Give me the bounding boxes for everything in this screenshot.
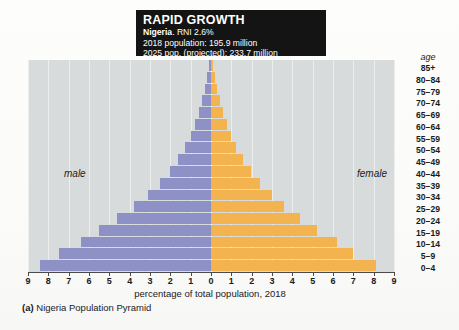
age-group-label: 25–29: [400, 204, 456, 216]
bar-male: [191, 131, 211, 142]
title-pop-2025: 2025 pop. (projected): 233.7 million: [143, 48, 319, 59]
age-group-label: 70–74: [400, 98, 456, 110]
x-tick-label: 4: [290, 276, 295, 286]
x-tick-label: 3: [269, 276, 274, 286]
bar-female: [211, 119, 227, 130]
age-group-label: 45–49: [400, 157, 456, 169]
age-group-label: 5–9: [400, 251, 456, 263]
female-series-label: female: [357, 168, 387, 179]
x-tick-label: 4: [127, 276, 132, 286]
bar-male: [134, 201, 211, 212]
age-group-label: 60–64: [400, 122, 456, 134]
bar-male: [59, 248, 212, 259]
bar-female: [211, 201, 284, 212]
x-tick-label: 5: [310, 276, 315, 286]
age-group-label: 10–14: [400, 239, 456, 251]
pyramid-row: [28, 107, 394, 119]
age-group-label: 85+: [400, 63, 456, 75]
bar-female: [211, 72, 215, 83]
bar-male: [178, 154, 211, 165]
bar-female: [211, 260, 376, 271]
age-group-label: 15–19: [400, 228, 456, 240]
age-group-label: 65–69: [400, 110, 456, 122]
x-tick-label: 6: [330, 276, 335, 286]
bar-female: [211, 84, 217, 95]
pyramid-row: [28, 119, 394, 131]
pyramid-row: [28, 142, 394, 154]
pyramid-row: [28, 190, 394, 202]
x-tick-label: 6: [86, 276, 91, 286]
bar-male: [170, 166, 211, 177]
pyramid-row: [28, 260, 394, 272]
age-group-label: 75–79: [400, 87, 456, 99]
x-tick-label: 0: [208, 276, 213, 286]
age-group-label: 30–34: [400, 192, 456, 204]
bar-female: [211, 237, 337, 248]
bar-female: [211, 142, 236, 153]
pyramid-row: [28, 84, 394, 96]
pyramid-row: [28, 213, 394, 225]
bar-male: [195, 119, 211, 130]
bar-female: [211, 225, 317, 236]
age-group-label: 50–54: [400, 145, 456, 157]
title-pop-2018: 2018 population: 195.9 million: [143, 38, 319, 49]
pyramid-plot-area: male: [28, 60, 394, 272]
bar-female: [211, 107, 223, 118]
age-group-label: 0–4: [400, 263, 456, 275]
x-tick-label: 9: [391, 276, 396, 286]
gridline: [394, 60, 395, 272]
bar-female: [211, 190, 272, 201]
title-heading: RAPID GROWTH: [143, 13, 319, 27]
x-tick-label: 7: [66, 276, 71, 286]
pyramid-row: [28, 225, 394, 237]
bar-female: [211, 60, 213, 71]
x-tick-label: 3: [147, 276, 152, 286]
age-group-labels: 85+80–8475–7970–7465–6960–6455–5950–5445…: [400, 63, 456, 275]
pyramid-row: [28, 60, 394, 72]
bar-female: [211, 248, 353, 259]
bar-male: [81, 237, 211, 248]
x-tick-label: 1: [229, 276, 234, 286]
age-group-label: 35–39: [400, 181, 456, 193]
bar-female: [211, 131, 231, 142]
title-rni: . RNI 2.6%: [172, 27, 214, 37]
age-group-label: 80–84: [400, 75, 456, 87]
age-group-label: 55–59: [400, 134, 456, 146]
pyramid-bars: [28, 60, 394, 272]
pyramid-row: [28, 201, 394, 213]
age-axis-column: age 85+80–8475–7970–7465–6960–6455–5950–…: [400, 52, 456, 275]
age-group-label: 20–24: [400, 216, 456, 228]
x-tick-label: 2: [168, 276, 173, 286]
x-tick-label: 1: [188, 276, 193, 286]
pyramid-row: [28, 95, 394, 107]
x-tick-label: 7: [351, 276, 356, 286]
figure-caption-text: Nigeria Population Pyramid: [36, 302, 151, 313]
bar-male: [99, 225, 211, 236]
bar-male: [199, 107, 211, 118]
bar-male: [160, 178, 211, 189]
age-group-label: 40–44: [400, 169, 456, 181]
title-country-line: Nigeria. RNI 2.6%: [143, 27, 319, 38]
x-axis-title: percentage of total population, 2018: [0, 288, 420, 299]
title-country: Nigeria: [143, 27, 172, 37]
x-tick-label: 8: [371, 276, 376, 286]
bar-male: [117, 213, 211, 224]
age-axis-header: age: [400, 52, 456, 63]
bar-female: [211, 178, 260, 189]
pyramid-row: [28, 178, 394, 190]
male-series-label: male: [64, 168, 86, 179]
bar-female: [211, 213, 300, 224]
x-tick-label: 2: [249, 276, 254, 286]
x-tick-label: 9: [25, 276, 30, 286]
bar-female: [211, 166, 251, 177]
pyramid-row: [28, 154, 394, 166]
bar-male: [40, 260, 211, 271]
pyramid-row: [28, 248, 394, 260]
bar-male: [185, 142, 211, 153]
chart-title-box: RAPID GROWTH Nigeria. RNI 2.6% 2018 popu…: [136, 10, 326, 56]
bar-female: [211, 95, 220, 106]
figure-caption: (a) Nigeria Population Pyramid: [22, 302, 151, 313]
pyramid-row: [28, 72, 394, 84]
x-tick-label: 8: [46, 276, 51, 286]
bar-female: [211, 154, 243, 165]
